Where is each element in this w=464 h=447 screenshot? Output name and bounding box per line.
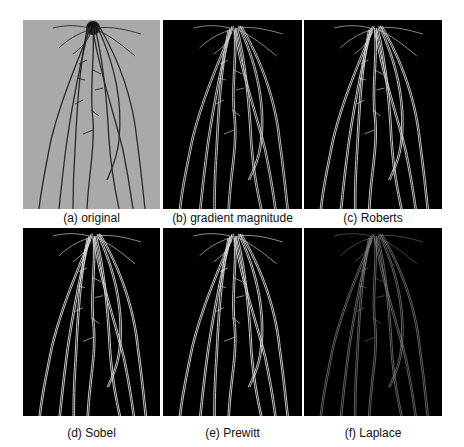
root-image-a (23, 20, 160, 209)
caption-c: (c) Roberts (304, 211, 442, 225)
root-image-d (23, 228, 160, 416)
caption-f: (f) Laplace (304, 426, 442, 440)
root-image-f (304, 228, 442, 416)
caption-a: (a) original (23, 211, 160, 225)
root-image-b (163, 20, 302, 209)
caption-e: (e) Prewitt (163, 426, 302, 440)
root-image-e (163, 228, 302, 416)
panel-a-original-image (23, 20, 160, 209)
root-image-c (304, 20, 442, 209)
panel-b-gradient-magnitude-image (163, 20, 302, 209)
caption-b: (b) gradient magnitude (163, 211, 302, 225)
caption-d: (d) Sobel (23, 426, 160, 440)
panel-f-laplace-image (304, 228, 442, 416)
panel-d-sobel-image (23, 228, 160, 416)
panel-c-roberts-image (304, 20, 442, 209)
panel-e-prewitt-image (163, 228, 302, 416)
